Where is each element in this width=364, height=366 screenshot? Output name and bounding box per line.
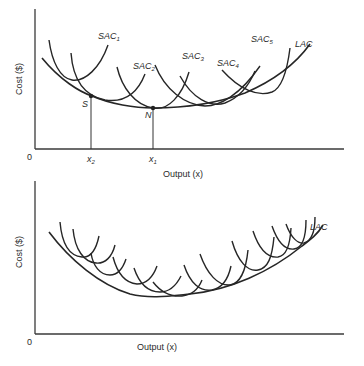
top-lac-label: LAC bbox=[295, 39, 313, 49]
point-s-marker bbox=[89, 94, 93, 98]
sac2-curve bbox=[117, 67, 189, 108]
bottom-origin-label: 0 bbox=[27, 337, 32, 347]
bottom-y-axis-label: Cost ($) bbox=[14, 236, 24, 268]
sac3-curve bbox=[155, 65, 260, 106]
point-n-label: N bbox=[145, 110, 152, 120]
top-x-axis-label: Output (x) bbox=[163, 169, 203, 179]
bottom-chart: Cost ($) 0 Output (x) LAC bbox=[14, 181, 344, 352]
sac5-label: SAC5 bbox=[251, 34, 274, 45]
top-origin-label: 0 bbox=[27, 152, 32, 162]
bottom-sac-curves bbox=[60, 217, 315, 296]
sac1-label: SAC1 bbox=[98, 31, 120, 42]
diagram-canvas: Cost ($) 0 x2 x1 Output (x) S N SAC1 SAC… bbox=[0, 0, 364, 366]
bottom-x-axis-label: Output (x) bbox=[137, 342, 177, 352]
bottom-lac-label: LAC bbox=[310, 222, 328, 232]
x2-tick-label: x2 bbox=[86, 154, 96, 165]
sac4-label: SAC4 bbox=[217, 58, 240, 69]
sac3-label: SAC3 bbox=[182, 51, 205, 62]
sac2-label: SAC2 bbox=[133, 61, 156, 72]
top-y-axis-label: Cost ($) bbox=[14, 63, 24, 95]
top-chart: Cost ($) 0 x2 x1 Output (x) S N SAC1 SAC… bbox=[14, 9, 344, 179]
x1-tick-label: x1 bbox=[148, 154, 157, 165]
point-s-label: S bbox=[82, 99, 88, 109]
